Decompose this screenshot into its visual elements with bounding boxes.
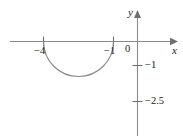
graph-figure: y x 0 −4 −1 −1 −2.5: [0, 0, 183, 139]
y-axis-arrowhead: [134, 10, 141, 18]
semicircle-curve: [44, 42, 114, 77]
x-tick-label-minus1: −1: [104, 46, 115, 57]
origin-label: 0: [125, 44, 130, 55]
y-axis-label: y: [128, 7, 133, 18]
y-tick-label-minus1: −1: [145, 60, 156, 71]
y-tick-label-minus2point5: −2.5: [145, 96, 164, 107]
x-tick-label-minus4: −4: [34, 46, 45, 57]
x-axis-label: x: [172, 45, 177, 56]
